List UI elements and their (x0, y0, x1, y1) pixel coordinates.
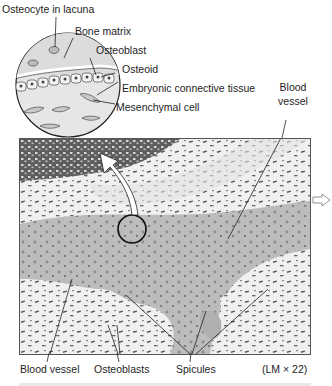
magnification-label: (LM × 22) (262, 363, 307, 375)
inset-diagram (0, 0, 332, 386)
label-osteoid: Osteoid (122, 63, 158, 75)
label-osteoblasts: Osteoblasts (94, 363, 149, 375)
label-bone-matrix: Bone matrix (75, 25, 131, 37)
label-osteocyte-in-lacuna: Osteocyte in lacuna (2, 3, 94, 15)
label-mesenchymal-cell: Mesenchymal cell (116, 101, 199, 113)
label-embryonic-connective-tissue: Embryonic connective tissue (122, 82, 255, 94)
label-spicules: Spicules (176, 363, 216, 375)
label-osteoblast: Osteoblast (96, 44, 146, 56)
label-blood-vessel-top-line1: Blood (276, 81, 310, 93)
label-blood-vessel-top-line2: vessel (275, 95, 311, 107)
label-blood-vessel-bottom: Blood vessel (20, 363, 80, 375)
